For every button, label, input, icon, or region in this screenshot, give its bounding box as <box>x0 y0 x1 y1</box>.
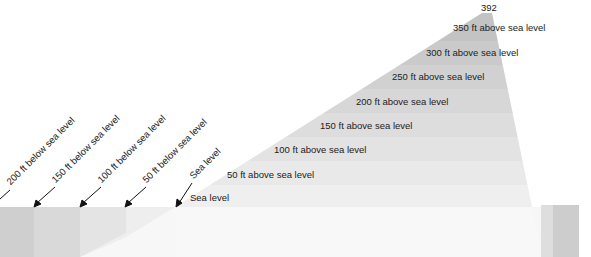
label-250ft-above: 250 ft above sea level <box>392 71 484 82</box>
label-150ft-above: 150 ft above sea level <box>320 120 412 131</box>
label-100ft-above: 100 ft above sea level <box>274 144 366 155</box>
peak-elevation-label: 392 <box>481 2 497 13</box>
elevation-diagram: 392 350 ft above sea level 300 ft above … <box>0 0 591 257</box>
label-50ft-above: 50 ft above sea level <box>227 169 314 180</box>
label-300ft-above: 300 ft above sea level <box>426 47 518 58</box>
elevation-profile-graphic <box>0 0 591 257</box>
label-sea-level: Sea level <box>190 192 229 203</box>
block-200ft-below <box>0 207 34 257</box>
block-150ft-below <box>34 207 80 257</box>
label-200ft-above: 200 ft above sea level <box>356 96 448 107</box>
label-350ft-above: 350 ft above sea level <box>453 22 545 33</box>
arrows <box>0 183 192 207</box>
right-block <box>551 205 579 257</box>
